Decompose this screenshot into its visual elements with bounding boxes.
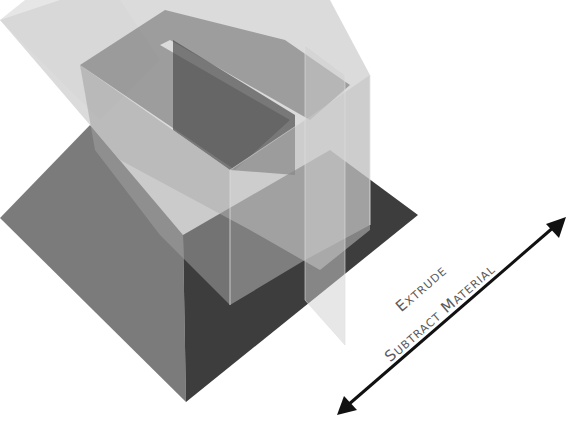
extrusion-illustration: [0, 0, 572, 430]
cutting-plane: [305, 45, 345, 345]
diagram-canvas: Extrude Subtract Material: [0, 0, 572, 430]
